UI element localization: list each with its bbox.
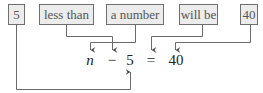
connector-lines <box>0 0 263 93</box>
connector-will-be-to-equals <box>152 25 203 50</box>
equation-variable-n: n <box>86 53 94 68</box>
equation-result-forty: 40 <box>169 53 184 68</box>
translation-diagram: 5 less than a number will be 40 n <box>0 0 263 93</box>
connector-forty-to-forty <box>176 25 251 50</box>
equation-constant-five: 5 <box>126 53 134 68</box>
equation-minus-sign: − <box>108 53 116 68</box>
connector-less-than-to-minus <box>67 25 113 50</box>
equation-equals-sign: = <box>147 53 155 68</box>
